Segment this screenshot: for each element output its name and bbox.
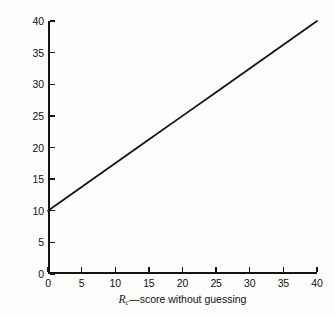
series-line-expected-score: [48, 21, 317, 274]
x-tick-label-25: 25: [210, 278, 221, 289]
x-tick-label-0: 0: [45, 278, 51, 289]
y-tick-label-5: 5: [38, 237, 44, 248]
y-tick-label-30: 30: [33, 79, 44, 90]
x-axis-label-symbol: R: [119, 293, 126, 305]
plot-area: 0510152025303540 0510152025303540: [48, 21, 317, 274]
chart-figure: 0510152025303540 0510152025303540 Rc—sco…: [0, 0, 335, 315]
y-tick-label-25: 25: [33, 111, 44, 122]
x-tick-label-30: 30: [244, 278, 255, 289]
y-tick-label-20: 20: [33, 142, 44, 153]
x-tick-label-20: 20: [177, 278, 188, 289]
x-tick-label-10: 10: [110, 278, 121, 289]
y-tick-label-35: 35: [33, 47, 44, 58]
x-tick-label-5: 5: [79, 278, 85, 289]
x-axis-label: Rc—score without guessing: [48, 293, 317, 308]
x-axis-label-text: —score without guessing: [129, 293, 246, 305]
y-tick-label-10: 10: [33, 206, 44, 217]
y-tick-label-15: 15: [33, 174, 44, 185]
x-tick-label-40: 40: [311, 278, 322, 289]
y-tick-label-40: 40: [33, 16, 44, 27]
y-tick-label-0: 0: [38, 269, 44, 280]
x-tick-label-35: 35: [278, 278, 289, 289]
x-tick-label-15: 15: [143, 278, 154, 289]
